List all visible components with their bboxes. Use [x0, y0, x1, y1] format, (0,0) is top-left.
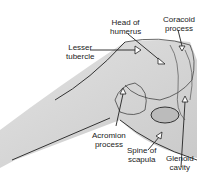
label-text: process	[163, 24, 195, 33]
label-text: tubercle	[66, 52, 94, 61]
label-text: Acromion	[92, 131, 126, 140]
label-coracoid-process: Coracoid process	[163, 15, 195, 33]
label-text: humerus	[110, 27, 141, 36]
label-text: Coracoid	[163, 15, 195, 24]
label-text: scapula	[127, 155, 156, 164]
label-glenoid-cavity: Glenoid cavity	[166, 154, 194, 172]
label-text: cavity	[166, 163, 194, 172]
shoulder-diagram: Head of humerus Coracoid process Lesser …	[0, 0, 209, 185]
label-text: Spine of	[127, 146, 156, 155]
label-text: Head of	[110, 18, 141, 27]
label-text: process	[92, 140, 126, 149]
label-text: Glenoid	[166, 154, 194, 163]
label-lesser-tubercle: Lesser tubercle	[66, 43, 94, 61]
label-head-of-humerus: Head of humerus	[110, 18, 141, 36]
label-text: Lesser	[66, 43, 94, 52]
label-spine-of-scapula: Spine of scapula	[127, 146, 156, 164]
label-acromion-process: Acromion process	[92, 131, 126, 149]
